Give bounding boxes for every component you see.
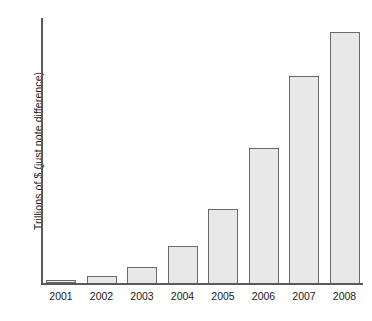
bar-chart: Trillions of $ (just note difference) 20… [0,0,372,321]
x-tick-label-2001: 2001 [39,289,83,303]
bar-2002 [87,276,117,283]
bar-2004 [168,246,198,283]
x-tick-label-2004: 2004 [161,289,205,303]
x-axis-line [41,283,363,285]
x-tick-label-2008: 2008 [323,289,367,303]
bar-2006 [249,148,279,283]
bar-2005 [208,209,238,283]
x-tick-label-2002: 2002 [80,289,124,303]
x-tick-label-2006: 2006 [242,289,286,303]
y-axis-line [41,18,43,285]
x-tick-label-2007: 2007 [282,289,326,303]
bar-2003 [127,267,157,283]
x-axis-tick-labels: 20012002200320042005200620072008 [41,289,363,307]
x-tick-label-2005: 2005 [201,289,245,303]
bar-2001 [46,280,76,283]
plot-area [41,18,363,285]
x-tick-label-2003: 2003 [120,289,164,303]
bar-2007 [289,76,319,283]
bar-2008 [330,32,360,283]
